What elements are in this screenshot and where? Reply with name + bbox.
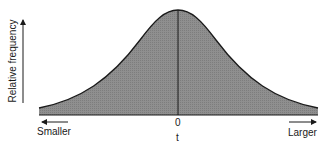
- t-distribution-diagram: [0, 0, 327, 147]
- x-axis-label: t: [176, 133, 179, 143]
- smaller-label: Smaller: [37, 127, 71, 137]
- x-tick-zero: 0: [175, 118, 181, 128]
- y-axis-label: Relative frequency: [8, 20, 18, 103]
- larger-label: Larger: [288, 128, 317, 138]
